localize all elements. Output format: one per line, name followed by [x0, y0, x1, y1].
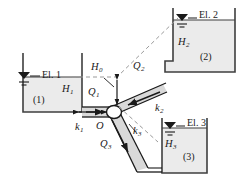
h0-leader-line — [104, 78, 114, 87]
three-reservoir-diagram: El. 1 H1 (1) El. 2 H2 (2) El. 3 H3 (3) H… — [0, 0, 250, 186]
diagram-canvas — [0, 0, 250, 186]
resistance-label-k2-symbol: k — [155, 102, 160, 113]
reservoir-number-1: (1) — [33, 95, 45, 105]
flow-label-q1-subscript: 1 — [96, 91, 100, 99]
head-label-h3-subscript: 3 — [173, 143, 177, 151]
reservoir-1-body — [23, 53, 82, 112]
flow-label-q3-subscript: 3 — [108, 143, 112, 151]
flow-label-q3: Q3 — [100, 139, 111, 151]
flow-label-q1-symbol: Q — [88, 86, 96, 97]
resistance-label-k2-subscript: 2 — [160, 107, 164, 115]
flow-label-q2-symbol: Q — [133, 60, 141, 71]
elevation-label-3: El. 3 — [187, 118, 206, 128]
elevation-label-1: El. 1 — [42, 70, 61, 80]
head-label-h1: H1 — [62, 84, 73, 96]
head-label-h0: H0 — [91, 62, 102, 74]
head-label-h2-subscript: 2 — [186, 41, 190, 49]
head-label-h3: H3 — [165, 139, 176, 151]
resistance-label-k1-subscript: 1 — [80, 126, 84, 134]
flow-label-q2-subscript: 2 — [141, 65, 145, 73]
resistance-label-k1-symbol: k — [75, 121, 80, 132]
resistance-label-k2: k2 — [155, 103, 163, 115]
head-label-h3-symbol: H — [165, 138, 173, 149]
junction-label-o: O — [96, 121, 104, 132]
resistance-label-k3-subscript: 3 — [138, 130, 142, 138]
resistance-label-k3-symbol: k — [133, 125, 138, 136]
flow-label-q3-symbol: Q — [100, 138, 108, 149]
resistance-label-k3: k3 — [133, 126, 141, 138]
head-label-h2: H2 — [178, 37, 189, 49]
resistance-label-k1: k1 — [75, 122, 83, 134]
head-label-h0-symbol: H — [91, 61, 99, 72]
head-label-h2-symbol: H — [178, 36, 186, 47]
flow-label-q2: Q2 — [133, 61, 144, 73]
elevation-label-2: El. 2 — [199, 10, 218, 20]
head-label-h1-subscript: 1 — [70, 88, 74, 96]
flow-label-q1: Q1 — [88, 87, 99, 99]
reservoir-number-2: (2) — [200, 52, 212, 62]
reservoir-number-3: (3) — [183, 152, 195, 162]
head-label-h1-symbol: H — [62, 83, 70, 94]
head-label-h0-subscript: 0 — [99, 66, 103, 74]
